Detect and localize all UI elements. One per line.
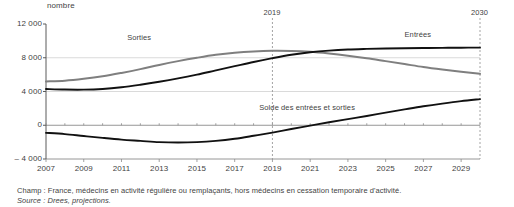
x-axis-tick-11: 2029 — [444, 164, 478, 173]
series-label-entr-es: Entrées — [405, 30, 432, 39]
x-axis-tick-2: 2011 — [104, 164, 138, 173]
footnote-source-lead: Source : — [17, 196, 47, 205]
x-axis-tick-8: 2023 — [331, 164, 365, 173]
footnote-source: Source : Drees, projections. — [17, 196, 111, 205]
vertical-marker-label-2030: 2030 — [471, 8, 488, 17]
x-axis-tick-10: 2027 — [406, 164, 440, 173]
x-axis-tick-1: 2009 — [67, 164, 101, 173]
x-axis-tick-4: 2015 — [180, 164, 214, 173]
footnote-champ: Champ : France, médecins en activité rég… — [17, 186, 401, 195]
vertical-marker-label-2019: 2019 — [263, 8, 280, 17]
footnote-champ-lead: Champ : — [17, 186, 48, 195]
x-axis-tick-7: 2021 — [293, 164, 327, 173]
series-label-sorties: Sorties — [127, 33, 151, 42]
footnote-source-text: Drees, projections. — [47, 196, 110, 205]
x-axis-tick-5: 2017 — [218, 164, 252, 173]
y-axis-tick-4: – 4 000 — [0, 154, 42, 163]
chart-figure: nombre 12 0008 0004 0000– 4 000 20072009… — [0, 0, 514, 207]
chart-plot-area — [0, 0, 514, 207]
footnote-champ-text: France, médecins en activité régulière o… — [48, 186, 401, 195]
y-axis-tick-0: 12 000 — [0, 19, 42, 28]
x-axis-tick-6: 2019 — [255, 164, 289, 173]
series-label-solde-des-entr-es-et-sorties: Solde des entrées et sorties — [259, 103, 355, 112]
x-axis-tick-0: 2007 — [29, 164, 63, 173]
x-axis-tick-3: 2013 — [142, 164, 176, 173]
y-axis-tick-1: 8 000 — [0, 53, 42, 62]
x-axis-tick-9: 2025 — [369, 164, 403, 173]
y-axis-tick-3: 0 — [0, 120, 42, 129]
y-axis-tick-2: 4 000 — [0, 87, 42, 96]
